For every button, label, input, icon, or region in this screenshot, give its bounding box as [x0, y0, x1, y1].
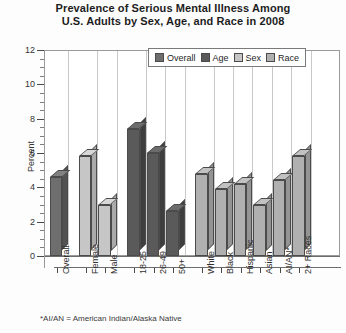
y-axis-tick-label: 4	[30, 182, 35, 192]
bar-side-face	[91, 144, 97, 250]
y-axis-tick-label: 10	[25, 79, 35, 89]
x-axis-tick	[241, 268, 242, 273]
bar	[147, 153, 159, 256]
bar	[127, 129, 139, 256]
legend-swatch	[266, 53, 275, 62]
y-axis-tick-label: 8	[30, 114, 35, 124]
legend-label: Sex	[246, 53, 262, 63]
chart-title: Prevalence of Serious Mental Illness Amo…	[0, 2, 346, 28]
bar-front-face	[127, 129, 139, 256]
bar-side-face	[159, 141, 165, 250]
bar	[273, 180, 285, 256]
y-axis-tick-major	[37, 187, 44, 188]
y-axis-tick-major	[37, 84, 44, 85]
y-axis-tick-major	[37, 50, 44, 51]
chart-container: Prevalence of Serious Mental Illness Amo…	[0, 0, 346, 333]
legend-item: Age	[201, 53, 229, 63]
bar	[195, 174, 207, 256]
bar	[79, 156, 91, 256]
bar	[253, 205, 265, 257]
chart-title-line-2: U.S. Adults by Sex, Age, and Race in 200…	[0, 15, 346, 28]
bar-front-face	[79, 156, 91, 256]
x-axis-label: Overall	[61, 245, 71, 274]
bar-front-face	[147, 153, 159, 256]
y-axis-tick-label: 0	[30, 251, 35, 261]
y-axis-tick-label: 6	[30, 148, 35, 158]
x-axis-tick	[202, 268, 203, 273]
x-axis-label: 2+ Races	[303, 236, 313, 274]
legend-item: Overall	[155, 53, 196, 63]
bar-side-face	[208, 162, 214, 250]
x-axis-tick	[154, 268, 155, 273]
x-axis-tick	[299, 268, 300, 273]
chart-legend: OverallAgeSexRace	[148, 48, 306, 67]
legend-item: Sex	[234, 53, 262, 63]
bar-front-face	[195, 174, 207, 256]
bar	[166, 211, 178, 256]
legend-swatch	[201, 53, 210, 62]
y-axis-tick-major	[37, 153, 44, 154]
legend-item: Race	[266, 53, 299, 63]
bar	[50, 177, 62, 256]
y-axis-tick-major	[37, 119, 44, 120]
x-axis-tick	[57, 268, 58, 273]
chart-title-line-1: Prevalence of Serious Mental Illness Amo…	[0, 2, 346, 15]
y-axis-tick-label: 12	[25, 45, 35, 55]
x-axis-tick	[280, 268, 281, 273]
x-axis-tick	[86, 268, 87, 273]
y-axis-tick-major	[37, 256, 44, 257]
x-axis-tick	[105, 268, 106, 273]
bar	[215, 189, 227, 256]
bar-side-face	[62, 165, 68, 250]
legend-swatch	[155, 53, 164, 62]
x-axis-tick	[221, 268, 222, 273]
bar-front-face	[253, 205, 265, 257]
legend-swatch	[234, 53, 243, 62]
bar-front-face	[273, 180, 285, 256]
bar-side-face	[140, 117, 146, 250]
bar-front-face	[166, 211, 178, 256]
bar	[98, 205, 110, 257]
y-axis-tick-major	[37, 222, 44, 223]
legend-label: Overall	[167, 53, 196, 63]
y-axis: Percent 024681012	[30, 44, 44, 262]
x-axis-label: Male	[109, 254, 119, 274]
bar-side-face	[305, 144, 311, 250]
chart-floor	[44, 256, 340, 268]
x-axis-tick	[173, 268, 174, 273]
y-axis-tick-label: 2	[30, 217, 35, 227]
legend-label: Race	[278, 53, 299, 63]
chart-footnote: *AI/AN = American Indian/Alaska Native	[40, 314, 182, 323]
bar-side-face	[285, 168, 291, 250]
x-axis-label: 50+	[177, 259, 187, 274]
bar-front-face	[50, 177, 62, 256]
bar-front-face	[215, 189, 227, 256]
bar-front-face	[98, 205, 110, 257]
x-axis-tick	[134, 268, 135, 273]
gridline-vertical	[68, 51, 69, 255]
legend-label: Age	[213, 53, 229, 63]
x-axis-tick	[260, 268, 261, 273]
